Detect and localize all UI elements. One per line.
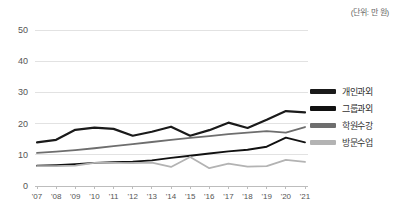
legend-color-swatch [310, 140, 336, 145]
series-lines [37, 111, 305, 168]
y-axis-tick-label: 10 [6, 150, 28, 160]
legend-color-swatch [310, 123, 336, 128]
legend-item[interactable]: 개인과외 [310, 84, 394, 98]
series-line [37, 138, 305, 166]
y-axis-tick-label: 20 [6, 119, 28, 129]
legend-label: 방문수업 [342, 136, 373, 149]
chart-legend: 개인과외그룹과외학원수강방문수업 [310, 84, 394, 152]
series-line [37, 111, 305, 142]
y-axis-tick-label: 50 [6, 25, 28, 35]
legend-color-swatch [310, 89, 336, 94]
x-axis-tick-label: '21 [294, 192, 316, 201]
legend-item[interactable]: 그룹과외 [310, 101, 394, 115]
legend-label: 그룹과외 [342, 102, 373, 115]
series-line [37, 127, 305, 153]
chart-container: (단위: 만 원) 01020304050 '07'08'09'10'11'12… [0, 0, 397, 217]
legend-color-swatch [310, 106, 336, 111]
y-axis-tick-label: 40 [6, 56, 28, 66]
legend-item[interactable]: 학원수강 [310, 118, 394, 132]
legend-label: 학원수강 [342, 119, 373, 132]
legend-label: 개인과외 [342, 85, 373, 98]
y-axis-tick-label: 30 [6, 87, 28, 97]
y-axis-tick-label: 0 [6, 181, 28, 191]
legend-item[interactable]: 방문수업 [310, 135, 394, 149]
